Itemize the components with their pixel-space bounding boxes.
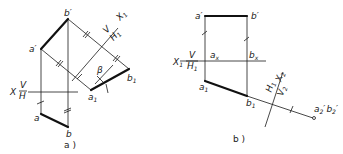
tick-mark	[202, 31, 207, 35]
tick-mark	[85, 32, 90, 38]
tick-mark	[244, 37, 249, 41]
label-b: b	[66, 129, 72, 139]
axis-v-label: V	[189, 50, 196, 60]
label-b-prime: b′	[251, 11, 259, 21]
angle-arrow	[106, 84, 108, 93]
projector-a-a1	[41, 49, 91, 90]
axis-h1-label: H1	[187, 61, 198, 72]
segment-a-prime-b-prime	[41, 19, 68, 49]
caption-a: a )	[64, 140, 76, 150]
axis-x2-v2-label: V2	[275, 84, 289, 97]
axis-x1-x-label: X1	[113, 8, 129, 24]
angle-beta-label: β	[96, 65, 103, 75]
label-a2-b2-prime: a2′b2′	[314, 104, 338, 115]
axis-x2-x-label: X2	[273, 70, 287, 84]
projector-to-a2b2	[247, 96, 313, 118]
projection-diagrams: b′ a′ a b a1 b1 X V H β V H1 X1 a )	[0, 0, 343, 154]
segment-a-b	[41, 114, 68, 127]
label-a-prime: a′	[29, 44, 37, 54]
label-b-prime: b′	[64, 8, 72, 18]
label-a1: a1	[199, 82, 208, 93]
segment-a1-b1	[205, 81, 247, 96]
label-bx: bx	[249, 50, 259, 61]
tick-mark	[290, 106, 293, 113]
axis-x2-labels: H1 V2 X2	[264, 68, 293, 97]
tick-mark	[37, 101, 44, 104]
tick-mark	[113, 55, 118, 61]
axis-v-label: V	[20, 80, 27, 90]
label-b1: b1	[246, 98, 256, 109]
axis-x1-label: X1	[172, 57, 183, 68]
diagram-a: b′ a′ a b a1 b1 X V H β V H1 X1 a )	[9, 8, 137, 150]
label-a: a	[34, 113, 40, 123]
axis-h-label: H	[19, 91, 26, 101]
axis-x-label: X	[9, 87, 17, 97]
label-a1: a1	[88, 92, 97, 103]
point-a2-b2	[313, 117, 316, 120]
projector-b-b1	[68, 19, 129, 69]
axis-x1-labels: V H1	[100, 21, 123, 43]
diagram-b: a′ b′ ax bx a1 b1 a2′b2′ X1 V H1 H1 V2 X…	[172, 11, 338, 144]
label-a-prime: a′	[195, 11, 203, 21]
label-b1: b1	[127, 73, 137, 84]
label-ax: ax	[210, 50, 220, 61]
caption-b: b )	[233, 134, 245, 144]
